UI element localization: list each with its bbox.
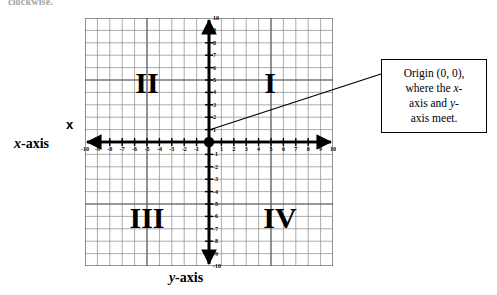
y-tick-label-6: 6 [213, 65, 216, 71]
quadrant-4-label: IV [263, 203, 296, 233]
callout-line-4: axis meet. [411, 112, 458, 124]
y-tick-label--6: -6 [213, 213, 218, 219]
x-tick-label--3: -3 [169, 146, 174, 152]
y-tick-label--2: -2 [213, 164, 218, 170]
x-tick-label-10: 10 [330, 146, 336, 152]
y-axis-label-suffix: -axis [175, 270, 203, 285]
y-tick-label-4: 4 [213, 89, 216, 95]
y-tick-label-5: 5 [213, 77, 216, 83]
y-tick-label--9: -9 [213, 251, 218, 257]
x-axis-bold-marker: x [66, 117, 73, 132]
y-tick-label-1: 1 [213, 127, 216, 133]
callout-line-3-pre: axis and [409, 97, 450, 109]
callout-line-1: Origin (0, 0), [404, 67, 465, 79]
x-tick-label--5: -5 [145, 146, 150, 152]
x-tick-label--1: -1 [194, 146, 199, 152]
y-tick-label-10: 10 [213, 15, 219, 21]
y-axis-label: y-axis [169, 270, 203, 286]
x-axis-label-suffix: -axis [21, 136, 49, 151]
clipped-header-text: clockwise. [8, 0, 128, 5]
origin-callout-box: Origin (0, 0), where the x- axis and y- … [381, 59, 487, 133]
x-tick-label-1: 1 [220, 146, 223, 152]
x-tick-label--6: -6 [132, 146, 137, 152]
x-tick-label-9: 9 [319, 146, 322, 152]
y-tick-label--7: -7 [213, 226, 218, 232]
coordinate-plane: -10-9-8-7-6-5-4-3-2-11234567891010987654… [85, 18, 333, 266]
quadrant-3-label: III [129, 203, 164, 233]
x-tick-label-3: 3 [245, 146, 248, 152]
x-tick-label--7: -7 [120, 146, 125, 152]
y-tick-label-2: 2 [213, 114, 216, 120]
x-axis-label-italic: x [14, 136, 21, 151]
x-tick-label--2: -2 [182, 146, 187, 152]
x-tick-label--8: -8 [107, 146, 112, 152]
x-tick-label--9: -9 [95, 146, 100, 152]
quadrant-1-label: I [264, 68, 276, 98]
x-tick-label-4: 4 [257, 146, 260, 152]
x-tick-label--10: -10 [81, 146, 89, 152]
x-tick-label--4: -4 [157, 146, 162, 152]
x-tick-label-7: 7 [294, 146, 297, 152]
x-tick-label-6: 6 [282, 146, 285, 152]
y-tick-label-8: 8 [213, 40, 216, 46]
y-tick-label--3: -3 [213, 176, 218, 182]
x-tick-label-2: 2 [232, 146, 235, 152]
y-tick-label--8: -8 [213, 238, 218, 244]
x-tick-label-8: 8 [307, 146, 310, 152]
y-tick-label--4: -4 [213, 189, 218, 195]
y-tick-label--1: -1 [213, 151, 218, 157]
quadrant-2-label: II [135, 68, 158, 98]
x-tick-label-5: 5 [270, 146, 273, 152]
origin-callout-text: Origin (0, 0), where the x- axis and y- … [404, 66, 465, 127]
y-tick-label-9: 9 [213, 27, 216, 33]
callout-line-3-post: - [455, 97, 459, 109]
y-tick-label--10: -10 [213, 263, 221, 269]
y-tick-label--5: -5 [213, 201, 218, 207]
callout-line-2-post: - [459, 82, 463, 94]
y-tick-label-3: 3 [213, 102, 216, 108]
origin-point [204, 137, 214, 147]
callout-line-2-pre: where the [406, 82, 454, 94]
y-tick-label-7: 7 [213, 52, 216, 58]
x-axis-label: x-axis [14, 136, 49, 152]
